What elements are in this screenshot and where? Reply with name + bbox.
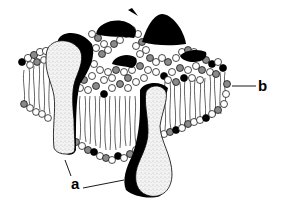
leader-line-a-right <box>83 180 124 188</box>
membrane-illustration <box>0 0 283 212</box>
label-b: b <box>258 78 267 93</box>
transmembrane-protein-front <box>124 83 172 198</box>
label-a: a <box>71 176 79 191</box>
membrane-diagram: a b <box>0 0 283 212</box>
transmembrane-protein-left <box>46 33 93 155</box>
leader-line-a-left <box>65 160 71 176</box>
